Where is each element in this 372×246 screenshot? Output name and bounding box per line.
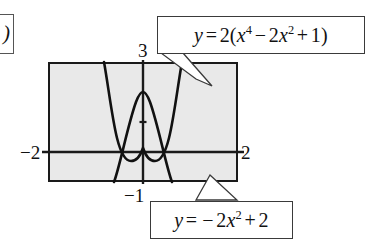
parabola-equation-text: y=−2x2+2 bbox=[174, 209, 268, 232]
quartic-equation-text: y=2(x4−2x2+1) bbox=[194, 24, 328, 47]
y-axis-min-label: −1 bbox=[124, 186, 144, 205]
plot-svg bbox=[48, 62, 238, 182]
part-label-text: ) bbox=[3, 21, 10, 45]
quartic-equation-callout: y=2(x4−2x2+1) bbox=[157, 16, 365, 54]
x-axis-max-label: 2 bbox=[241, 143, 251, 162]
figure-container: ) −2 2 3 −1 y=2(x4−2x2+1) y=−2x2+2 bbox=[0, 0, 372, 246]
part-label: ) bbox=[0, 14, 14, 54]
x-axis-min-label: −2 bbox=[20, 143, 40, 162]
parabola-equation-callout: y=−2x2+2 bbox=[150, 201, 293, 239]
y-axis-max-label: 3 bbox=[138, 41, 148, 60]
